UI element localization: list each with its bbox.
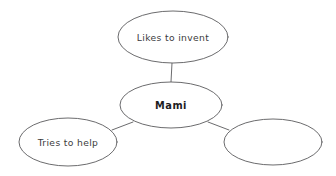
- connector-center-to-left: [112, 122, 133, 130]
- bubble-node-center-mami[interactable]: Mami: [120, 82, 222, 128]
- connector-center-to-top: [171, 63, 172, 82]
- bubble-node-blank[interactable]: [224, 119, 322, 165]
- diagram-canvas: Likes to invent Mami Tries to help: [0, 0, 336, 176]
- connector-center-to-right: [208, 122, 229, 130]
- bubble-node-likes-to-invent[interactable]: Likes to invent: [118, 11, 228, 63]
- bubble-label: Tries to help: [37, 137, 99, 148]
- bubble-label: Likes to invent: [137, 32, 209, 43]
- center-label: Mami: [155, 100, 187, 111]
- bubble-outline: [224, 119, 322, 165]
- bubble-node-tries-to-help[interactable]: Tries to help: [19, 118, 117, 166]
- bubble-map-diagram: Likes to invent Mami Tries to help: [0, 0, 336, 176]
